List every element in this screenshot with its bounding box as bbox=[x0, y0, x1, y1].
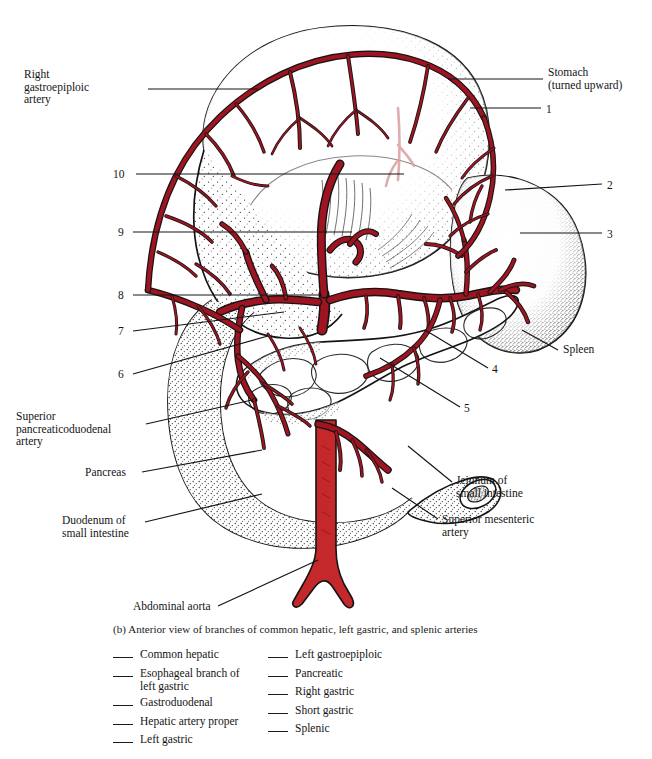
answer-blank-right-4[interactable] bbox=[268, 713, 288, 714]
answer-label: Esophageal branch of left gastric bbox=[140, 667, 240, 693]
answer-blank-left-2[interactable] bbox=[113, 676, 133, 677]
label-duodenum-of-small-intestine: Duodenum of small intestine bbox=[62, 514, 129, 539]
answer-blank-right-2[interactable] bbox=[268, 676, 288, 677]
label-number-6: 6 bbox=[118, 368, 124, 380]
label-number-7: 7 bbox=[118, 325, 124, 337]
answer-item[interactable]: Pancreatic bbox=[268, 667, 438, 682]
label-number-10: 10 bbox=[113, 168, 125, 180]
label-superior-mesenteric-artery: Superior mesenteric artery bbox=[442, 513, 534, 538]
answer-label: Right gastric bbox=[295, 685, 354, 698]
answer-item[interactable]: Right gastric bbox=[268, 685, 438, 700]
answer-item[interactable]: Gastroduodenal bbox=[113, 696, 263, 711]
answer-label: Left gastroepiploic bbox=[295, 648, 382, 661]
label-right-gastroepiploic-artery: Right gastroepiploic artery bbox=[24, 68, 89, 106]
answer-item[interactable]: Hepatic artery proper bbox=[113, 715, 263, 730]
answer-item[interactable]: Left gastroepiploic bbox=[268, 648, 438, 663]
answer-label: Hepatic artery proper bbox=[140, 715, 238, 728]
answer-item[interactable]: Left gastric bbox=[113, 733, 263, 748]
answer-label: Left gastric bbox=[140, 733, 193, 746]
answer-blank-right-5[interactable] bbox=[268, 731, 288, 732]
answer-blank-right-3[interactable] bbox=[268, 694, 288, 695]
answer-item[interactable]: Short gastric bbox=[268, 704, 438, 719]
leader-line-jejunum-of-small-intestine bbox=[408, 446, 452, 482]
label-number-3: 3 bbox=[607, 228, 613, 240]
anatomy-figure bbox=[0, 0, 652, 759]
label-jejunum-of-small-intestine: Jejunum of small intestine bbox=[456, 474, 523, 499]
answer-blank-left-4[interactable] bbox=[113, 724, 133, 725]
answer-item[interactable]: Esophageal branch of left gastric bbox=[113, 667, 263, 693]
answer-item[interactable]: Common hepatic bbox=[113, 648, 263, 663]
answer-blank-right-1[interactable] bbox=[268, 657, 288, 658]
label-abdominal-aorta: Abdominal aorta bbox=[133, 600, 211, 613]
answer-column-left: Common hepaticEsophageal branch of left … bbox=[113, 648, 263, 752]
figure-caption: (b) Anterior view of branches of common … bbox=[113, 623, 478, 635]
label-number-5: 5 bbox=[464, 402, 470, 414]
label-number-8: 8 bbox=[118, 289, 124, 301]
answer-label: Pancreatic bbox=[295, 667, 343, 680]
answer-item[interactable]: Splenic bbox=[268, 722, 438, 737]
label-pancreas: Pancreas bbox=[85, 466, 126, 479]
label-number-1: 1 bbox=[546, 103, 552, 115]
label-stomach-turned-upward: Stomach (turned upward) bbox=[548, 66, 622, 91]
label-superior-pancreaticoduodenal-artery: Superior pancreaticoduodenal artery bbox=[16, 410, 111, 448]
label-number-9: 9 bbox=[118, 226, 124, 238]
answer-label: Splenic bbox=[295, 722, 330, 735]
answer-column-right: Left gastroepiploicPancreaticRight gastr… bbox=[268, 648, 438, 741]
label-number-2: 2 bbox=[607, 179, 613, 191]
answer-blank-left-5[interactable] bbox=[113, 742, 133, 743]
answer-label: Gastroduodenal bbox=[140, 696, 213, 709]
answer-blank-left-3[interactable] bbox=[113, 705, 133, 706]
label-number-4: 4 bbox=[492, 363, 498, 375]
label-spleen: Spleen bbox=[563, 343, 594, 356]
answer-label: Common hepatic bbox=[140, 648, 219, 661]
answer-blank-left-1[interactable] bbox=[113, 657, 133, 658]
answer-label: Short gastric bbox=[295, 704, 353, 717]
